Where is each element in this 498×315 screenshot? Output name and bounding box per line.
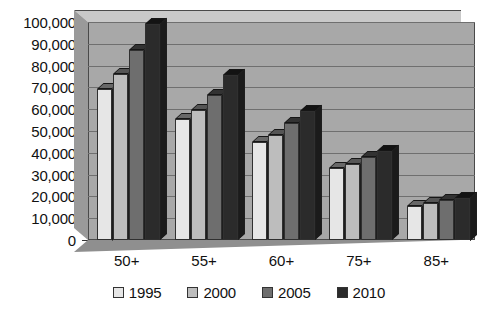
bar-2005-60+	[284, 123, 299, 240]
legend-swatch-icon	[262, 287, 273, 298]
bar-1995-85+	[407, 206, 422, 240]
chart-container: 010,00020,00030,00040,00050,00060,00070,…	[0, 0, 498, 315]
y-axis-tick-label: 10,000	[31, 210, 76, 227]
bar-side-face	[392, 144, 399, 240]
bar-front-face	[113, 74, 128, 240]
bar-front-face	[145, 24, 160, 240]
bar-front-face	[284, 123, 299, 240]
legend-item-2000[interactable]: 2000	[187, 284, 236, 301]
bar-2000-55+	[191, 110, 206, 240]
bar-front-face	[361, 157, 376, 240]
y-axis-tick-label: 40,000	[31, 144, 76, 161]
legend-label: 1995	[129, 284, 162, 301]
y-axis: 010,00020,00030,00040,00050,00060,00070,…	[0, 0, 84, 315]
plot-area	[88, 22, 475, 240]
x-axis-label-60+: 60+	[243, 252, 320, 269]
bar-front-face	[252, 142, 267, 240]
legend-label: 2000	[203, 284, 236, 301]
bar-front-face	[407, 206, 422, 240]
legend-item-2010[interactable]: 2010	[337, 284, 386, 301]
legend-item-1995[interactable]: 1995	[113, 284, 162, 301]
legend-item-2005[interactable]: 2005	[262, 284, 311, 301]
bar-side-face	[470, 191, 477, 240]
bar-front-face	[377, 151, 392, 240]
bar-front-face	[207, 95, 222, 240]
y-axis-tick-label: 20,000	[31, 188, 76, 205]
bar-2000-85+	[423, 203, 438, 240]
bar-front-face	[191, 110, 206, 240]
bar-front-face	[423, 203, 438, 240]
bar-front-face	[268, 135, 283, 240]
legend-label: 2010	[353, 284, 386, 301]
x-axis-label-85+: 85+	[398, 252, 475, 269]
bar-front-face	[97, 89, 112, 241]
bar-front-face	[175, 119, 190, 240]
bar-2005-50+	[129, 50, 144, 240]
y-axis-tick-label: 30,000	[31, 166, 76, 183]
bar-2010-60+	[300, 111, 315, 240]
bar-front-face	[300, 111, 315, 240]
bar-front-face	[345, 164, 360, 240]
bar-2010-50+	[145, 24, 160, 240]
bar-2000-50+	[113, 74, 128, 240]
bar-2010-85+	[455, 198, 470, 241]
bar-side-face	[160, 18, 167, 240]
chart-top-face	[74, 10, 461, 22]
legend-swatch-icon	[187, 287, 198, 298]
bar-2000-75+	[345, 164, 360, 240]
bar-front-face	[129, 50, 144, 240]
bar-2000-60+	[268, 135, 283, 240]
chart-legend: 1995200020052010	[0, 284, 498, 301]
y-axis-tick-label: 50,000	[31, 123, 76, 140]
bar-2005-75+	[361, 157, 376, 240]
bar-side-face	[238, 69, 245, 240]
y-axis-tick-label: 90,000	[31, 35, 76, 52]
x-axis-label-75+: 75+	[320, 252, 397, 269]
legend-label: 2005	[278, 284, 311, 301]
legend-swatch-icon	[337, 287, 348, 298]
bar-front-face	[329, 168, 344, 240]
chart-left-face	[74, 10, 89, 240]
x-axis-label-50+: 50+	[88, 252, 165, 269]
y-axis-tick-label: 100,000	[23, 14, 76, 31]
bar-2005-55+	[207, 95, 222, 240]
bar-side-face	[315, 105, 322, 240]
bar-2005-85+	[439, 200, 454, 240]
bar-1995-75+	[329, 168, 344, 240]
y-axis-tick-label: 0	[68, 232, 76, 249]
x-axis-label-55+: 55+	[165, 252, 242, 269]
bar-1995-50+	[97, 89, 112, 241]
bar-1995-55+	[175, 119, 190, 240]
bar-2010-75+	[377, 151, 392, 240]
bar-2010-55+	[223, 75, 238, 240]
y-axis-tick-label: 70,000	[31, 79, 76, 96]
y-axis-tick-label: 80,000	[31, 57, 76, 74]
y-axis-tick-label: 60,000	[31, 101, 76, 118]
bar-front-face	[455, 198, 470, 241]
legend-swatch-icon	[113, 287, 124, 298]
bar-front-face	[439, 200, 454, 240]
bar-1995-60+	[252, 142, 267, 240]
bar-front-face	[223, 75, 238, 240]
